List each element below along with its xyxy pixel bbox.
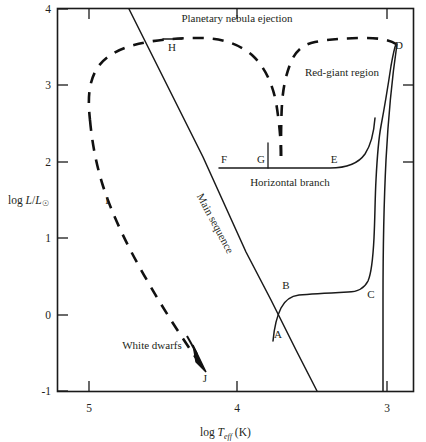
evolutionary-track-abcd (273, 44, 396, 341)
x-ticklabel-5: 5 (86, 402, 92, 414)
hr-diagram-figure: 5 4 3 4 3 2 1 0 -1 log L/L☉ log Teff (K) (0, 0, 426, 442)
y-axis-title-symbol2: L (34, 194, 41, 206)
point-label-h: H (168, 41, 176, 53)
y-ticklabel-1: 1 (45, 232, 51, 244)
x-axis-title-suffix: (K) (232, 426, 251, 439)
y-axis-title-sun-icon: ☉ (42, 199, 49, 208)
y-ticklabel-3: 3 (45, 79, 51, 91)
hr-diagram-plot: 5 4 3 4 3 2 1 0 -1 log L/L☉ log Teff (K) (0, 0, 426, 442)
point-label-g: G (257, 153, 265, 165)
svg-text:log Teff (K): log Teff (K) (200, 426, 251, 441)
svg-text:log L/L☉: log L/L☉ (8, 194, 49, 208)
y-ticklabel-2: 2 (45, 156, 51, 168)
point-label-c: C (367, 288, 374, 300)
x-ticklabel-4: 4 (234, 402, 240, 414)
point-label-j: J (203, 372, 208, 384)
white-dwarfs-arrow-icon (187, 336, 206, 372)
descending-branch-curve (383, 44, 397, 391)
planetary-nebula-ejection-label: Planetary nebula ejection (181, 12, 293, 24)
point-label-f: F (221, 153, 227, 165)
y-ticklabel-m1: -1 (41, 385, 51, 397)
x-ticklabel-3: 3 (384, 402, 390, 414)
y-axis-title: log L/L☉ (8, 194, 49, 208)
x-axis-title: log Teff (K) (200, 426, 251, 441)
main-sequence-label: Main sequence (195, 191, 237, 255)
horizontal-branch-label: Horizontal branch (250, 176, 330, 188)
point-label-i: I (105, 194, 109, 206)
planetary-nebula-dashed-track-left (89, 38, 281, 156)
y-ticklabel-0: 0 (45, 309, 51, 321)
point-label-d: D (395, 39, 403, 51)
red-giant-region-label: Red-giant region (305, 66, 380, 78)
y-axis-title-prefix: log (8, 194, 26, 207)
point-label-a: A (274, 328, 282, 340)
x-axis-title-prefix: log (200, 426, 218, 439)
white-dwarfs-label: White dwarfs (122, 339, 182, 351)
white-dwarf-cooling-dashed-track (90, 120, 199, 362)
horizontal-branch-curve (219, 118, 375, 168)
y-axis-title-symbol: L (25, 194, 32, 206)
point-label-e: E (331, 153, 338, 165)
y-ticklabel-4: 4 (45, 3, 51, 15)
point-label-b: B (282, 279, 289, 291)
